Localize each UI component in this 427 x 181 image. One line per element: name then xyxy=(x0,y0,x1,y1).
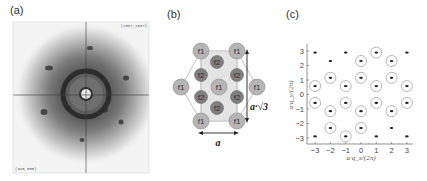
bragg-peak-point xyxy=(386,106,397,117)
peak-dot xyxy=(375,135,379,137)
peak-dot xyxy=(344,102,348,104)
peak-dot xyxy=(390,110,394,112)
bragg-peak-point xyxy=(313,135,317,137)
peak-dot xyxy=(313,102,317,104)
bragg-peak-point xyxy=(344,51,348,53)
bragg-peak-point xyxy=(356,72,367,83)
peak-dot xyxy=(344,85,348,87)
chart-points xyxy=(310,47,413,142)
bragg-peak-point xyxy=(313,51,317,53)
bragg-peak-point xyxy=(386,72,397,83)
y-tick-label: 1 xyxy=(300,76,304,85)
bragg-peak-point xyxy=(340,81,351,92)
peak-dot xyxy=(329,60,333,62)
x-axis-label: a·q_x/(2π) xyxy=(347,154,377,162)
peak-dot xyxy=(390,77,394,79)
bragg-peak-point xyxy=(371,81,382,92)
bragg-peak-point xyxy=(340,97,351,108)
y-tick-label: −1 xyxy=(295,105,304,114)
peak-dot xyxy=(313,135,317,137)
bragg-peak-point xyxy=(386,56,397,67)
peak-dot xyxy=(405,85,409,87)
panel-c-scatter-chart: 3210−1−2−3−3−2−10123 a·q_x/(2π) a·q_y/(2… xyxy=(0,0,427,181)
x-tick-label: 3 xyxy=(405,146,409,155)
bragg-peak-point xyxy=(375,135,379,137)
bragg-peak-point xyxy=(356,122,367,133)
y-tick-label: −3 xyxy=(295,134,304,143)
peak-dot xyxy=(390,60,394,62)
bragg-peak-point xyxy=(401,97,412,108)
peak-dot xyxy=(375,85,379,87)
x-tick-label: 2 xyxy=(390,146,394,155)
peak-dot xyxy=(359,127,363,129)
peak-dot xyxy=(344,135,348,137)
peak-dot xyxy=(313,85,317,87)
y-tick-label: 3 xyxy=(300,47,304,56)
x-tick-label: −2 xyxy=(326,146,335,155)
peak-dot xyxy=(329,127,333,129)
peak-dot xyxy=(405,135,409,137)
peak-dot xyxy=(390,127,394,129)
peak-dot xyxy=(344,51,348,53)
peak-dot xyxy=(375,51,379,53)
y-axis-label: a·q_y/(2π) xyxy=(287,80,295,110)
peak-dot xyxy=(329,77,333,79)
bragg-peak-point xyxy=(329,60,333,62)
bragg-peak-point xyxy=(310,97,321,108)
bragg-peak-point xyxy=(310,81,321,92)
bragg-peak-point xyxy=(325,72,336,83)
y-tick-label: 0 xyxy=(300,90,304,99)
bragg-peak-point xyxy=(371,97,382,108)
chart-axes: 3210−1−2−3−3−2−10123 xyxy=(295,44,413,155)
bragg-peak-point xyxy=(325,106,336,117)
bragg-peak-point xyxy=(340,131,351,142)
peak-dot xyxy=(359,110,363,112)
bragg-peak-point xyxy=(405,135,409,137)
bragg-peak-point xyxy=(390,127,394,129)
peak-dot xyxy=(375,102,379,104)
bragg-peak-point xyxy=(401,81,412,92)
peak-dot xyxy=(359,60,363,62)
x-tick-label: −3 xyxy=(311,146,320,155)
peak-dot xyxy=(313,51,317,53)
bragg-peak-point xyxy=(356,106,367,117)
bragg-peak-point xyxy=(371,47,382,58)
peak-dot xyxy=(405,102,409,104)
peak-dot xyxy=(359,77,363,79)
peak-dot xyxy=(405,51,409,53)
bragg-peak-point xyxy=(325,122,336,133)
y-tick-label: 2 xyxy=(300,61,304,70)
bragg-peak-point xyxy=(405,51,409,53)
y-tick-label: −2 xyxy=(295,119,304,128)
bragg-peak-point xyxy=(356,56,367,67)
peak-dot xyxy=(329,110,333,112)
